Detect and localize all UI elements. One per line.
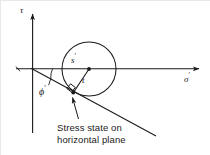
tau-symbol: τ xyxy=(20,5,23,15)
center-stress-label: s′ xyxy=(71,54,76,65)
sigma-prime-symbol: ′ xyxy=(188,72,190,80)
sigma-axis-label: σ′ xyxy=(184,73,190,84)
phi-prime-symbol: ′ xyxy=(44,84,46,93)
mohr-circle-figure: τ σ′ s′ t ϕ′ Stress state on horizontal … xyxy=(0,0,210,155)
caption-pointer-arrow xyxy=(73,98,79,120)
t-symbol: t xyxy=(82,75,85,85)
friction-angle-arc xyxy=(51,69,53,79)
s-prime-symbol: ′ xyxy=(75,53,77,61)
caption-line-2: horizontal plane xyxy=(57,134,126,146)
tau-axis-label: τ xyxy=(20,6,23,15)
friction-angle-label: ϕ′ xyxy=(39,85,46,97)
friction-angle-leader xyxy=(49,78,51,85)
radius-stress-label: t xyxy=(82,76,85,85)
caption-line-1: Stress state on xyxy=(57,122,122,134)
